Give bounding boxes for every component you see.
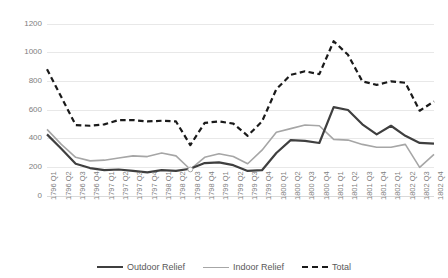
x-axis-tick-label: 1797 Q2: [122, 171, 130, 200]
x-axis-tick-label: 1798 Q1: [165, 171, 173, 200]
x-axis-tick-label: 1797 Q4: [151, 171, 159, 200]
x-axis-tick-label: 1799 Q3: [251, 171, 259, 200]
data-point-marker: [188, 167, 193, 172]
series-line-total: [47, 41, 434, 145]
x-axis-tick-label: 1796 Q1: [50, 171, 58, 200]
legend-line-icon-outdoor: [97, 266, 123, 268]
x-axis-tick-label: 1800 Q1: [280, 171, 288, 200]
x-axis-tick-label: 1796 Q2: [65, 171, 73, 200]
x-axis-tick-label: 1801 Q1: [337, 171, 345, 200]
y-axis-tick-label: 0: [2, 192, 42, 200]
x-axis-tick-label: 1801 Q2: [351, 171, 359, 200]
x-axis-tick-label: 1799 Q4: [265, 171, 273, 200]
x-axis-tick-label: 1802 Q2: [409, 171, 417, 200]
x-axis-tick-label: 1802 Q4: [437, 171, 445, 200]
plot-area: [0, 0, 448, 278]
y-axis-tick-label: 200: [2, 163, 42, 171]
y-axis-tick-label: 400: [2, 134, 42, 142]
x-axis-tick-label: 1796 Q4: [93, 171, 101, 200]
y-axis-tick-label: 800: [2, 77, 42, 85]
legend-label-outdoor: Outdoor Relief: [127, 262, 185, 272]
x-axis-tick-label: 1800 Q2: [294, 171, 302, 200]
y-axis-tick-label: 600: [2, 106, 42, 114]
series-line-indoor-relief: [47, 125, 434, 169]
legend-label-indoor: Indoor Relief: [233, 262, 284, 272]
y-axis-tick-label: 1200: [2, 20, 42, 28]
x-axis-tick-label: 1800 Q4: [323, 171, 331, 200]
x-axis-tick-label: 1798 Q4: [208, 171, 216, 200]
x-axis-tick-label: 1797 Q3: [136, 171, 144, 200]
x-axis-tick-label: 1800 Q3: [308, 171, 316, 200]
x-axis-tick-label: 1797 Q1: [108, 171, 116, 200]
x-axis-tick-label: 1796 Q3: [79, 171, 87, 200]
legend-item-outdoor-relief: Outdoor Relief: [97, 262, 185, 272]
x-axis-tick-label: 1799 Q1: [222, 171, 230, 200]
x-axis-tick-label: 1802 Q1: [394, 171, 402, 200]
y-axis-tick-label: 1000: [2, 48, 42, 56]
x-axis-tick-label: 1801 Q3: [366, 171, 374, 200]
line-chart: 020040060080010001200 1796 Q11796 Q21796…: [0, 0, 448, 278]
legend-label-total: Total: [332, 262, 351, 272]
legend-line-icon-total: [302, 266, 328, 268]
x-axis-tick-label: 1798 Q2: [179, 171, 187, 200]
chart-legend: Outdoor Relief Indoor Relief Total: [0, 262, 448, 272]
x-axis-tick-label: 1801 Q4: [380, 171, 388, 200]
series-line-outdoor-relief: [47, 107, 434, 172]
legend-item-indoor-relief: Indoor Relief: [203, 262, 284, 272]
legend-item-total: Total: [302, 262, 351, 272]
x-axis-tick-label: 1802 Q3: [423, 171, 431, 200]
x-axis-tick-label: 1799 Q2: [237, 171, 245, 200]
legend-line-icon-indoor: [203, 267, 229, 268]
x-axis-tick-label: 1798 Q3: [194, 171, 202, 200]
